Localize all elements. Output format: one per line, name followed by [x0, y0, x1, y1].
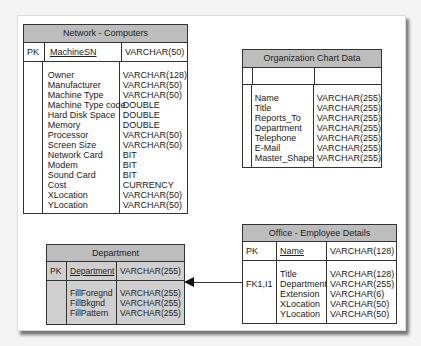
- pk-type: VARCHAR(50): [122, 43, 184, 61]
- fk-label: FK1,I1: [243, 261, 277, 323]
- pk-row: PK MachineSN VARCHAR(50): [24, 43, 187, 62]
- pk-row: PK Department VARCHAR(255): [47, 262, 184, 281]
- fields-row: FK1,I1 TitleDepartmentExtensionXLocation…: [243, 261, 396, 323]
- table-title: Office - Employee Details: [243, 225, 396, 242]
- pk-label: PK: [243, 242, 277, 260]
- pk-type: VARCHAR(128): [327, 242, 394, 260]
- pk-field: Name: [277, 242, 327, 260]
- table-network-computers[interactable]: Network - Computers PK MachineSN VARCHAR…: [23, 24, 188, 214]
- field-names: TitleDepartmentExtensionXLocationYLocati…: [277, 261, 327, 323]
- table-organization-chart-data[interactable]: Organization Chart Data NameTitleReports…: [242, 49, 382, 168]
- field-types: VARCHAR(255)VARCHAR(255)VARCHAR(255): [117, 281, 181, 324]
- pk-field: MachineSN: [45, 43, 122, 61]
- pk-row: [243, 68, 381, 85]
- table-office-employee-details[interactable]: Office - Employee Details PK Name VARCHA…: [242, 224, 397, 324]
- relationship-line[interactable]: [193, 282, 242, 283]
- pk-label: PK: [47, 262, 67, 280]
- field-names: FillForegndFillBkgndFillPattern: [67, 281, 117, 324]
- table-title: Organization Chart Data: [243, 50, 381, 68]
- field-types: VARCHAR(128)VARCHAR(50)VARCHAR(50)DOUBLE…: [120, 62, 187, 213]
- field-names: OwnerManufacturerMachine TypeMachine Typ…: [43, 62, 120, 213]
- pk-field: Department: [67, 262, 117, 280]
- field-types: VARCHAR(255)VARCHAR(255)VARCHAR(255)VARC…: [314, 85, 381, 167]
- pk-type: VARCHAR(255): [117, 262, 181, 280]
- table-department[interactable]: Department PK Department VARCHAR(255) Fi…: [46, 244, 185, 325]
- pk-label: PK: [24, 43, 45, 61]
- pk-row: PK Name VARCHAR(128): [243, 242, 396, 261]
- field-types: VARCHAR(128)VARCHAR(255)VARCHAR(6)VARCHA…: [327, 261, 394, 323]
- table-title: Department: [47, 245, 184, 262]
- fields-row: FillForegndFillBkgndFillPattern VARCHAR(…: [47, 281, 184, 324]
- fields-row: OwnerManufacturerMachine TypeMachine Typ…: [24, 62, 187, 213]
- arrow-head-icon: [184, 277, 194, 287]
- field-names: NameTitleReports_ToDepartmentTelephoneE-…: [252, 85, 314, 167]
- table-title: Network - Computers: [24, 25, 187, 43]
- fields-row: NameTitleReports_ToDepartmentTelephoneE-…: [243, 85, 381, 167]
